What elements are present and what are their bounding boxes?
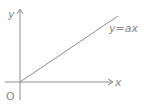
equation-label: y=ax bbox=[108, 22, 138, 35]
line-y-equals-ax bbox=[20, 16, 118, 82]
coordinate-diagram: y x O y=ax bbox=[0, 0, 145, 110]
x-axis bbox=[5, 79, 113, 85]
x-axis-label: x bbox=[114, 76, 122, 89]
y-axis-label: y bbox=[7, 8, 15, 21]
y-axis bbox=[17, 9, 23, 100]
origin-label: O bbox=[6, 90, 15, 103]
